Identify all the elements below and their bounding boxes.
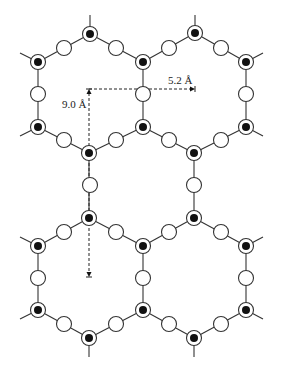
open-atom bbox=[109, 225, 124, 240]
core-atom bbox=[239, 55, 254, 70]
core-atom bbox=[136, 55, 151, 70]
core-atom bbox=[82, 211, 97, 226]
open-atom bbox=[57, 133, 72, 148]
arrowhead-right-icon bbox=[190, 87, 195, 92]
atom-core bbox=[34, 58, 42, 66]
core-atom bbox=[31, 120, 46, 135]
atom-core bbox=[34, 306, 42, 314]
core-atom bbox=[188, 26, 203, 41]
atom-core bbox=[190, 334, 198, 342]
open-atom bbox=[109, 133, 124, 148]
open-atom bbox=[239, 87, 254, 102]
open-atom bbox=[31, 87, 46, 102]
open-atom bbox=[109, 41, 124, 56]
horizontal-distance-label: 5.2 Å bbox=[168, 74, 193, 86]
atom-core bbox=[242, 242, 250, 250]
core-atom bbox=[82, 331, 97, 346]
bond-lines bbox=[38, 33, 246, 338]
core-atom bbox=[83, 27, 98, 42]
open-atom bbox=[57, 317, 72, 332]
atom-core bbox=[139, 58, 147, 66]
core-atom bbox=[136, 239, 151, 254]
atom-core bbox=[139, 306, 147, 314]
open-atom bbox=[214, 41, 229, 56]
open-atom bbox=[239, 271, 254, 286]
atom-core bbox=[242, 58, 250, 66]
open-atom bbox=[31, 271, 46, 286]
open-atom bbox=[162, 317, 177, 332]
open-atom bbox=[57, 225, 72, 240]
open-atom bbox=[214, 225, 229, 240]
atom-core bbox=[34, 242, 42, 250]
open-atom bbox=[57, 41, 72, 56]
atom-core bbox=[85, 149, 93, 157]
atom-core bbox=[139, 242, 147, 250]
open-atom bbox=[136, 87, 151, 102]
core-atom bbox=[187, 146, 202, 161]
atom-core bbox=[85, 214, 93, 222]
atom-core bbox=[190, 214, 198, 222]
core-atoms bbox=[31, 26, 254, 346]
core-atom bbox=[239, 239, 254, 254]
open-atom bbox=[162, 225, 177, 240]
atom-core bbox=[191, 29, 199, 37]
open-atom bbox=[83, 178, 98, 193]
atom-core bbox=[139, 123, 147, 131]
vertical-distance-label: 9.0 Å bbox=[62, 98, 87, 110]
atom-core bbox=[242, 306, 250, 314]
open-atom bbox=[162, 133, 177, 148]
atom-core bbox=[85, 334, 93, 342]
core-atom bbox=[82, 146, 97, 161]
open-atom bbox=[136, 271, 151, 286]
core-atom bbox=[136, 120, 151, 135]
core-atom bbox=[239, 120, 254, 135]
open-atom bbox=[214, 317, 229, 332]
open-atom bbox=[187, 178, 202, 193]
atom-core bbox=[86, 30, 94, 38]
open-atoms bbox=[31, 41, 254, 332]
open-atom bbox=[162, 41, 177, 56]
atom-core bbox=[242, 123, 250, 131]
core-atom bbox=[31, 55, 46, 70]
core-atom bbox=[136, 303, 151, 318]
core-atom bbox=[187, 331, 202, 346]
core-atom bbox=[31, 239, 46, 254]
core-atom bbox=[31, 303, 46, 318]
open-atom bbox=[214, 133, 229, 148]
arrowhead-up-icon bbox=[87, 89, 92, 94]
open-atom bbox=[109, 317, 124, 332]
core-atom bbox=[187, 211, 202, 226]
honeycomb-lattice-diagram: 5.2 Å 9.0 Å bbox=[0, 0, 283, 369]
core-atom bbox=[239, 303, 254, 318]
arrowhead-down-icon bbox=[87, 272, 92, 277]
atom-core bbox=[34, 123, 42, 131]
atom-core bbox=[190, 149, 198, 157]
